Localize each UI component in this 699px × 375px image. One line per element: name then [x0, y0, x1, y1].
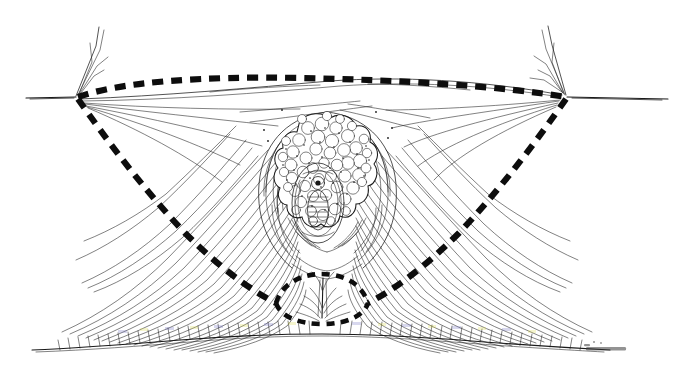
illustration-canvas	[0, 0, 699, 375]
anatomical-illustration	[0, 0, 699, 375]
